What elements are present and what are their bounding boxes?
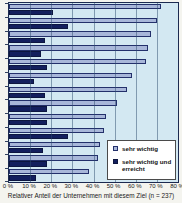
x-tick-label-80: 80 % — [170, 183, 182, 189]
x-tick-label-60: 60 % — [128, 183, 142, 189]
bar-dark-2 — [9, 24, 68, 29]
category-tick — [5, 86, 9, 87]
x-tick-label-30: 30 % — [65, 183, 79, 189]
category-tick — [5, 99, 9, 100]
bar-light-13 — [9, 169, 89, 174]
bar-light-1 — [9, 4, 161, 9]
bar-dark-3 — [9, 38, 45, 43]
gridline-10 — [30, 3, 31, 182]
bar-dark-9 — [9, 120, 47, 125]
bar-dark-10 — [9, 134, 68, 139]
x-tick-label-0: 0 % — [3, 183, 13, 189]
x-tick-label-70: 70 % — [149, 183, 163, 189]
legend-label-1: sehr wichtig — [122, 145, 158, 153]
bar-light-12 — [9, 155, 98, 160]
x-tick-label-20: 20 % — [43, 183, 57, 189]
bar-light-7 — [9, 87, 127, 92]
category-tick — [5, 181, 9, 182]
bar-dark-13 — [9, 175, 36, 180]
legend-swatch-dark-icon — [113, 159, 118, 164]
category-tick — [5, 44, 9, 45]
bar-light-10 — [9, 128, 104, 133]
category-tick — [5, 17, 9, 18]
legend-item-2: sehr wichtig und erreicht — [113, 158, 172, 173]
legend-label-2: sehr wichtig und erreicht — [122, 158, 172, 173]
bar-dark-7 — [9, 93, 45, 98]
category-tick — [5, 72, 9, 73]
category-tick — [5, 127, 9, 128]
bar-light-11 — [9, 142, 100, 147]
category-tick — [5, 58, 9, 59]
category-tick — [5, 31, 9, 32]
x-tick-label-50: 50 % — [107, 183, 121, 189]
bar-light-2 — [9, 18, 157, 23]
bar-light-6 — [9, 73, 132, 78]
category-tick — [5, 168, 9, 169]
bar-dark-12 — [9, 161, 47, 166]
bar-dark-11 — [9, 148, 43, 153]
bar-dark-8 — [9, 106, 47, 111]
x-axis: 0 %10 %20 %30 %40 %50 %60 %70 %80 % — [8, 183, 178, 191]
category-tick — [5, 3, 9, 4]
gridline-20 — [51, 3, 52, 182]
legend-swatch-light-icon — [113, 146, 118, 151]
axis-caption: Relativer Anteil der Unternehmen mit die… — [0, 192, 182, 199]
gridline-40 — [94, 3, 95, 182]
bar-dark-1 — [9, 10, 53, 15]
bar-dark-4 — [9, 51, 41, 56]
bar-light-9 — [9, 114, 106, 119]
bar-light-8 — [9, 100, 117, 105]
category-tick — [5, 141, 9, 142]
category-tick — [5, 113, 9, 114]
legend-item-1: sehr wichtig — [113, 145, 172, 153]
gridline-30 — [72, 3, 73, 182]
x-tick-label-10: 10 % — [22, 183, 36, 189]
bar-dark-5 — [9, 65, 47, 70]
x-tick-label-40: 40 % — [86, 183, 100, 189]
category-tick — [5, 154, 9, 155]
legend-box: sehr wichtigsehr wichtig und erreicht — [107, 140, 176, 180]
chart-canvas: sehr wichtigsehr wichtig und erreicht 0 … — [0, 0, 182, 203]
